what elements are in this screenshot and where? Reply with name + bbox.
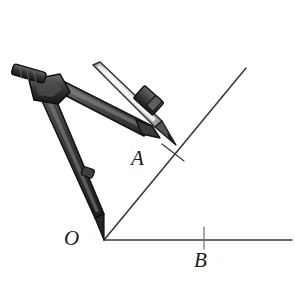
figure-canvas (0, 0, 295, 288)
geometry-figure: O A B (0, 0, 295, 288)
point-label-b: B (194, 250, 207, 271)
needle-leg-highlight (44, 93, 99, 213)
point-label-o: O (64, 228, 79, 249)
tick-marks (162, 144, 204, 249)
drawing-compass (11, 62, 176, 240)
needle-point (95, 214, 104, 240)
compass-needle-leg (38, 90, 104, 240)
point-label-a: A (131, 148, 144, 169)
compass-top-handle (11, 64, 47, 84)
